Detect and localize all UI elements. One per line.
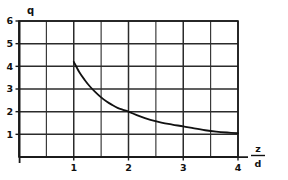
y-tick-label: 1	[6, 129, 13, 140]
x-axis-label-denominator: d	[255, 158, 262, 169]
y-tick-label: 4	[6, 61, 13, 72]
x-axis-label-numerator: z	[255, 143, 261, 154]
y-tick-label: 5	[6, 38, 13, 49]
chart-background	[0, 0, 288, 180]
y-tick-label: 6	[6, 15, 13, 26]
y-tick-label: 3	[6, 83, 13, 94]
x-tick-label: 2	[125, 162, 132, 173]
chart-svg: 123456 1234 q z d	[0, 0, 288, 180]
x-tick-label: 1	[70, 162, 77, 173]
x-tick-label: 3	[180, 162, 187, 173]
y-axis-label: q	[27, 5, 34, 16]
chart-figure: 123456 1234 q z d	[0, 0, 288, 180]
y-tick-label: 2	[6, 106, 13, 117]
x-tick-label: 4	[235, 162, 242, 173]
